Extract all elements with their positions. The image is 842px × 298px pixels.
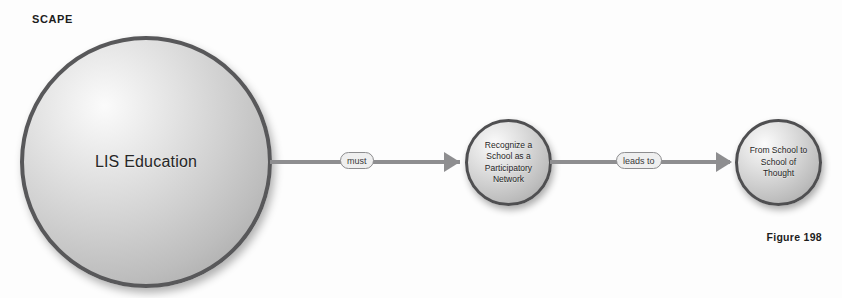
edge-leads-to-label: leads to [616, 152, 662, 169]
section-label-scape: SCAPE [32, 13, 73, 25]
node-school-of-thought-label: From School to School of Thought [750, 145, 808, 179]
edge-must-label: must [340, 152, 374, 169]
node-participatory-network[interactable]: Recognize a School as a Participatory Ne… [465, 119, 552, 206]
node-lis-education-label: LIS Education [95, 153, 197, 172]
edge-leads-to-arrowhead-icon [716, 152, 732, 172]
diagram-canvas: SCAPE LIS Education must Recognize a Sch… [0, 0, 842, 298]
node-school-of-thought[interactable]: From School to School of Thought [735, 119, 822, 206]
node-lis-education[interactable]: LIS Education [20, 36, 272, 288]
node-participatory-network-label: Recognize a School as a Participatory Ne… [485, 140, 532, 186]
figure-caption: Figure 198 [766, 231, 822, 243]
edge-must-arrowhead-icon [444, 152, 460, 172]
